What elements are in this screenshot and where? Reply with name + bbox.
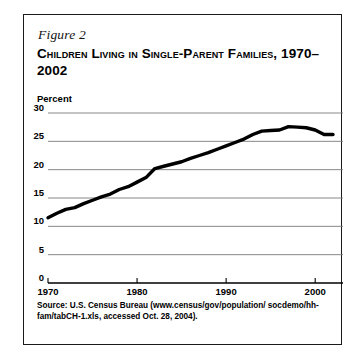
chart-plot-area: 3025201510501970198019902000 xyxy=(24,15,343,346)
x-axis-tick-label: 1980 xyxy=(117,286,157,297)
x-axis-tick-label: 1970 xyxy=(28,286,68,297)
data-series-line xyxy=(48,127,333,218)
y-axis-tick-label: 20 xyxy=(26,159,44,170)
y-axis-tick-label: 10 xyxy=(26,215,44,226)
source-note: Source: U.S. Census Bureau (www.census/g… xyxy=(37,301,329,322)
figure-frame: Figure 2 Children Living in Single-Paren… xyxy=(23,14,342,345)
y-axis-tick-label: 15 xyxy=(26,187,44,198)
y-axis-tick-label: 0 xyxy=(26,272,44,283)
y-axis-tick-label: 5 xyxy=(26,244,44,255)
x-axis-tick-label: 2000 xyxy=(295,286,335,297)
y-axis-tick-label: 30 xyxy=(26,102,44,113)
x-axis-tick-label: 1990 xyxy=(206,286,246,297)
y-axis-tick-label: 25 xyxy=(26,130,44,141)
